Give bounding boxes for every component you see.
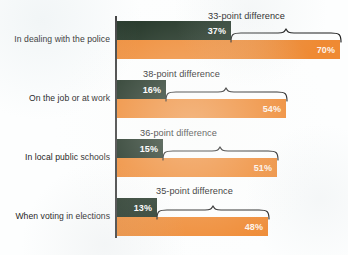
bar-value-orange-police: 70%: [317, 45, 335, 55]
difference-label-schools: 36-point difference: [140, 128, 217, 138]
category-label-schools: In local public schools: [0, 152, 110, 162]
difference-brace-police: [229, 29, 343, 43]
difference-brace-schools: [161, 147, 280, 161]
grouped-bar-chart: In dealing with the police 37% 70% 33-po…: [0, 0, 348, 255]
bar-value-orange-voting: 48%: [245, 222, 263, 232]
bar-dark-work[interactable]: 16%: [117, 80, 166, 99]
bar-value-dark-police: 37%: [208, 26, 226, 36]
bar-value-orange-work: 54%: [263, 104, 281, 114]
bar-dark-schools[interactable]: 15%: [117, 139, 163, 158]
difference-brace-work: [164, 88, 289, 102]
difference-label-work: 38-point difference: [143, 69, 220, 79]
difference-brace-voting: [155, 206, 271, 220]
category-label-work: On the job or at work: [0, 93, 110, 103]
category-label-police: In dealing with the police: [0, 34, 110, 44]
category-label-voting: When voting in elections: [0, 211, 110, 221]
bar-value-dark-schools: 15%: [140, 144, 158, 154]
bar-dark-police[interactable]: 37%: [117, 21, 231, 40]
difference-label-police: 33-point difference: [208, 11, 285, 21]
bar-dark-voting[interactable]: 13%: [117, 198, 157, 217]
bar-value-dark-work: 16%: [143, 85, 161, 95]
difference-label-voting: 35-point difference: [156, 186, 233, 196]
bar-value-dark-voting: 13%: [134, 203, 152, 213]
bar-value-orange-schools: 51%: [254, 163, 272, 173]
